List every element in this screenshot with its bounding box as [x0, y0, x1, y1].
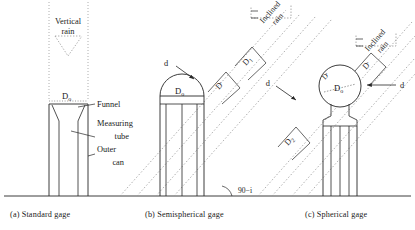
label-D2-c: D2 — [283, 135, 296, 148]
panel-a-leaders — [71, 104, 95, 156]
inclined-rain-band-b — [120, 10, 332, 196]
diagram-canvas: Vertical rain Do Funnel Measuring tube O… — [0, 0, 415, 230]
panel-c-spherical-gage — [258, 22, 415, 196]
label-Dprime-c: D' — [361, 60, 373, 71]
label-funnel: Funnel — [97, 100, 121, 109]
vertical-rain-label-line1: Vertical — [55, 17, 82, 26]
rain-v-indicator — [55, 36, 82, 56]
standard-gage-body — [49, 104, 88, 196]
caption-panel-c: (c) Spherical gage — [305, 210, 367, 219]
spherical-gage-body — [323, 126, 357, 196]
label-d-b: d — [164, 59, 169, 68]
label-d-c-right: d — [400, 81, 405, 90]
incidence-angle-marker-b — [222, 186, 232, 196]
leader-outer-can — [88, 154, 95, 156]
label-D1-b: D1 — [241, 55, 254, 68]
label-incidence-angle: 90−i — [238, 186, 252, 195]
rain-gage-comparison-figure: Vertical rain Do Funnel Measuring tube O… — [0, 0, 415, 230]
inclined-rain-band-c — [258, 22, 415, 196]
funnel-left-taper — [52, 105, 59, 121]
caption-panel-b: (b) Semispherical gage — [145, 210, 224, 219]
semispherical-gage-body — [160, 96, 204, 196]
label-Dprime-b: D' — [214, 80, 226, 91]
panel-b-semispherical-gage — [120, 4, 332, 196]
label-measuring-tube-line2: tube — [115, 132, 130, 141]
label-outer-can-line1: Outer — [97, 145, 116, 154]
label-measuring-tube-line1: Measuring — [97, 119, 134, 128]
funnel-right-taper — [78, 105, 85, 121]
drop-size-arrow-c-left — [276, 86, 296, 100]
label-d-c-left: d — [266, 79, 271, 88]
caption-panel-a: (a) Standard gage — [10, 210, 70, 219]
leader-measuring-tube — [71, 131, 95, 137]
label-Do-a: Do — [62, 91, 71, 102]
label-outer-can-line2: can — [112, 158, 124, 167]
vertical-rain-label-line2: rain — [61, 27, 75, 36]
